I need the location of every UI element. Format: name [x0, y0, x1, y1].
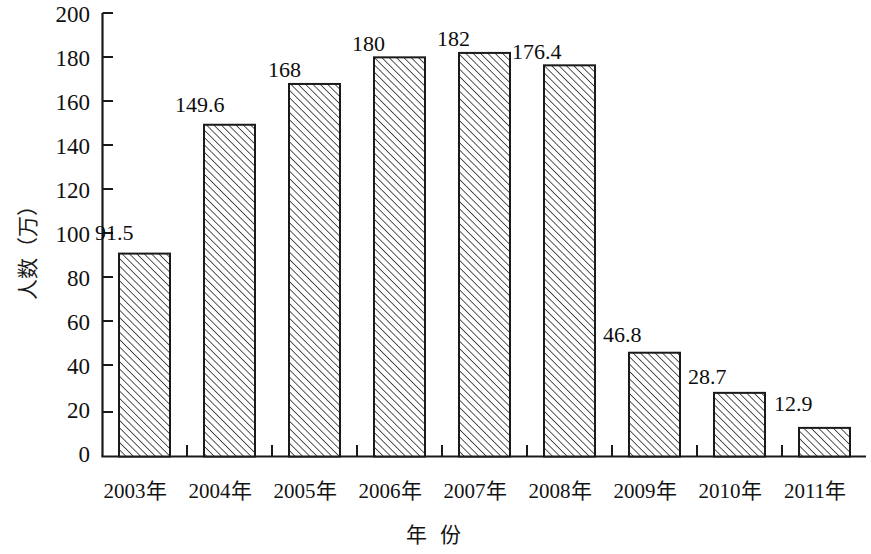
- bar: [544, 65, 595, 456]
- bar-value-label: 12.9: [774, 393, 813, 415]
- bar-value-label: 176.4: [512, 41, 562, 63]
- bar: [629, 353, 680, 457]
- bar-chart: 人数（万） 200 180 160 140 120 100 80 60 40 2…: [0, 0, 871, 554]
- y-axis-ticks: [103, 13, 114, 412]
- x-tick-label-2011: 2011年: [765, 480, 865, 502]
- bar-value-label: 149.6: [175, 94, 225, 116]
- bar-value-label: 46.8: [603, 324, 642, 346]
- bar: [374, 57, 425, 456]
- x-axis-title: 年 份: [0, 518, 871, 548]
- bars-group: [119, 53, 850, 457]
- bar-value-label: 182: [437, 28, 470, 50]
- plot-area: [0, 0, 871, 554]
- bar: [459, 53, 510, 457]
- bar: [714, 393, 765, 457]
- bar: [204, 125, 255, 457]
- bar-value-label: 180: [352, 33, 385, 55]
- bar: [119, 254, 170, 457]
- bar: [799, 428, 850, 457]
- bar-value-label: 91.5: [95, 222, 134, 244]
- bar-value-label: 168: [268, 59, 301, 81]
- bar-value-label: 28.7: [688, 366, 727, 388]
- bar: [289, 84, 340, 457]
